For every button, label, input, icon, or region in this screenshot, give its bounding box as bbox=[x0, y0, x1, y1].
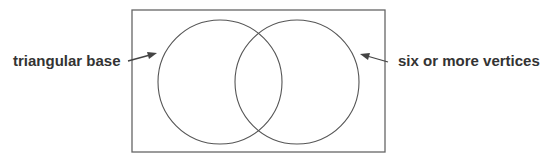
left-set-label: triangular base bbox=[13, 52, 121, 69]
right-set-label: six or more vertices bbox=[398, 52, 540, 69]
right-circle bbox=[235, 20, 359, 144]
venn-diagram bbox=[0, 0, 541, 160]
left-circle bbox=[158, 20, 282, 144]
right-arrow-icon bbox=[360, 53, 388, 62]
